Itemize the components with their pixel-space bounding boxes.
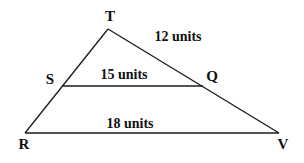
- measure-label-sq: 15 units: [100, 67, 148, 82]
- measure-label-tq: 12 units: [154, 29, 202, 44]
- triangle-diagram: T S Q R V 12 units 15 units 18 units: [0, 0, 304, 163]
- vertex-label-s: S: [46, 71, 54, 87]
- vertex-label-q: Q: [206, 68, 218, 84]
- side-tr: [25, 29, 108, 133]
- measure-label-rv: 18 units: [106, 116, 154, 131]
- vertex-label-t: T: [105, 8, 115, 24]
- vertex-label-r: R: [19, 136, 30, 152]
- vertex-label-v: V: [278, 136, 289, 152]
